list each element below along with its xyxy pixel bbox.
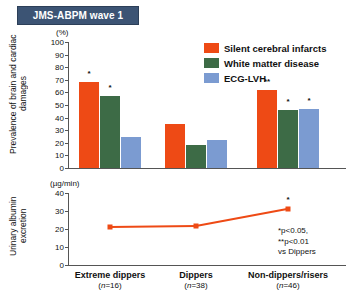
- significance-marker: *: [108, 85, 111, 91]
- significance-marker: *: [286, 197, 289, 203]
- significance-marker: *: [307, 98, 310, 104]
- bar: [207, 140, 227, 168]
- category-sample-size: (n=46): [248, 281, 328, 290]
- bar-chart-y-tick-label: 20: [42, 138, 64, 147]
- line-chart-y-tick-label: 40: [42, 189, 64, 198]
- significance-marker: *: [87, 71, 90, 77]
- data-point-marker: [194, 224, 199, 229]
- page-title: JMS-ABPM wave 1: [33, 10, 123, 21]
- bar-chart-y-tick-mark: [65, 92, 68, 93]
- x-axis-category-label: Extreme dippers(n=16): [75, 270, 146, 290]
- bar-chart-y-tick-mark: [65, 143, 68, 144]
- bar: [121, 137, 141, 169]
- bar-chart-y-tick-label: 100: [42, 38, 64, 47]
- data-point-marker: [286, 207, 291, 212]
- line-chart-y-tick-mark: [65, 265, 68, 266]
- bar: [278, 110, 298, 168]
- bar-chart-y-tick-mark: [65, 168, 68, 169]
- line-chart-y-tick-mark: [65, 193, 68, 194]
- bar-chart-y-axis-label: Prevalence of brain and cardiac damages: [8, 32, 38, 156]
- bar-chart-panel: Prevalence of brain and cardiac damages …: [0, 30, 352, 182]
- line-chart-y-axis-line: [68, 193, 69, 265]
- bar-chart-y-tick-label: 30: [42, 126, 64, 135]
- bar-chart-y-axis-line: [68, 42, 69, 168]
- bar: [257, 90, 277, 168]
- category-sample-size: (n=16): [75, 281, 146, 290]
- bar-chart-y-tick-label: 60: [42, 88, 64, 97]
- category-name: Dippers: [179, 270, 213, 280]
- line-segment: [196, 208, 288, 227]
- significance-marker: **: [264, 79, 270, 85]
- bar-chart-y-tick-label: 50: [42, 101, 64, 110]
- x-axis-category-label: Dippers(n=38): [179, 270, 213, 290]
- bar: [100, 96, 120, 168]
- bar-chart-y-tick-mark: [65, 155, 68, 156]
- significance-footnote: *p<0.05, **p<0.01 vs Dippers: [278, 226, 316, 258]
- bar-chart-y-tick-mark: [65, 118, 68, 119]
- x-axis-category-label: Non-dippers/risers(n=46): [248, 270, 328, 290]
- bar-chart-y-tick-label: 80: [42, 63, 64, 72]
- bar-chart-y-unit: (%): [56, 28, 68, 37]
- bar: [165, 124, 185, 168]
- line-chart-x-axis-line: [68, 265, 346, 266]
- category-name: Extreme dippers: [75, 270, 146, 280]
- bar-chart-y-tick-label: 40: [42, 113, 64, 122]
- line-chart-y-tick-mark: [65, 211, 68, 212]
- category-sample-size: (n=38): [179, 281, 213, 290]
- bar-chart-y-tick-label: 0: [42, 164, 64, 173]
- line-chart-y-tick-label: 30: [42, 207, 64, 216]
- line-segment: [110, 225, 196, 228]
- bar-chart-y-tick-mark: [65, 130, 68, 131]
- bar-chart-y-tick-mark: [65, 105, 68, 106]
- line-chart-y-axis-label: Urinary albumin excretion: [8, 189, 38, 263]
- bar: [299, 109, 319, 168]
- line-chart-y-tick-mark: [65, 247, 68, 248]
- category-name: Non-dippers/risers: [248, 270, 328, 280]
- figure-title-banner: JMS-ABPM wave 1: [17, 6, 139, 25]
- line-chart-y-unit: (µg/min): [50, 179, 80, 188]
- bar-chart-y-tick-mark: [65, 80, 68, 81]
- line-chart-y-tick-mark: [65, 229, 68, 230]
- bar-chart-y-tick-label: 10: [42, 151, 64, 160]
- figure-root: JMS-ABPM wave 1 Silent cerebral infarcts…: [0, 0, 352, 300]
- significance-marker: *: [286, 99, 289, 105]
- bar-chart-y-tick-mark: [65, 42, 68, 43]
- line-chart-y-tick-label: 20: [42, 225, 64, 234]
- bar-chart-y-tick-mark: [65, 67, 68, 68]
- data-point-marker: [108, 225, 113, 230]
- line-chart-y-tick-label: 0: [42, 261, 64, 270]
- line-chart-y-tick-label: 10: [42, 243, 64, 252]
- bar: [79, 82, 99, 168]
- bar-chart-y-tick-mark: [65, 55, 68, 56]
- bar-chart-y-tick-label: 90: [42, 50, 64, 59]
- bar-chart-y-tick-label: 70: [42, 75, 64, 84]
- bar-chart-x-axis-line: [68, 168, 346, 169]
- bar: [186, 145, 206, 168]
